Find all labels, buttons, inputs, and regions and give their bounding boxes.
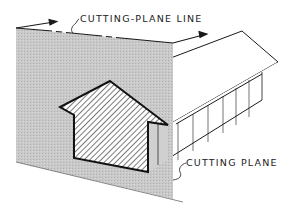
leader-cutting-plane-line	[72, 19, 79, 33]
label-cutting-plane-line: CUTTING-PLANE LINE	[80, 13, 202, 24]
section-diagram: CUTTING-PLANE LINE CUTTING PLANE	[0, 0, 296, 217]
label-cutting-plane: CUTTING PLANE	[186, 157, 278, 168]
leader-cutting-plane	[173, 163, 186, 180]
